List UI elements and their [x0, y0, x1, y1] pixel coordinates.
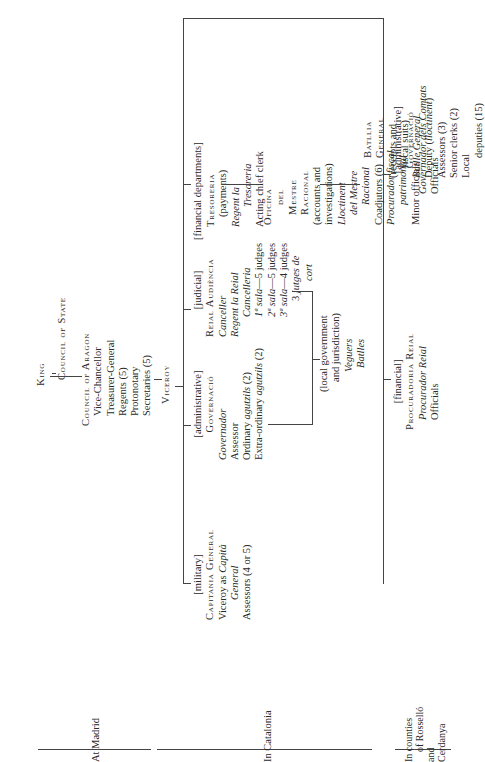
connector-governacio-down [268, 424, 313, 425]
reial-audiencia-node: [judicial] Reial Audiència Canceller Reg… [192, 243, 315, 337]
connector-local-bar [312, 291, 313, 425]
connector-king-aragon [50, 376, 82, 377]
governacio-node: [administrative] Governació Governador A… [192, 348, 266, 460]
connector-financial-departments [183, 184, 191, 185]
financial-departments-label: [financial departments] [192, 142, 204, 240]
region-label-catalonia: In Catalonia [262, 710, 274, 762]
connector-governacio-comtats [383, 174, 391, 175]
governacio-comtats-node: [administrative] Governació Governador d… [392, 86, 441, 195]
connector-oficina-batllia [320, 184, 360, 185]
main-branch-bar [183, 18, 184, 584]
local-government-node: (local government and jurisdiction) Vegu… [318, 313, 367, 392]
council-of-aragon-node: Council of Aragon Vice-Chancellor Treasu… [80, 333, 154, 426]
connector-capitania [183, 583, 191, 584]
connector-audiencia [183, 309, 191, 310]
region-label-madrid: At Madrid [90, 718, 102, 762]
connector-sala-down [292, 291, 313, 292]
connector-governacio [183, 425, 191, 426]
council-of-state-node: Council of State [56, 297, 68, 380]
branch-right-end [183, 18, 383, 19]
king-node: King [35, 363, 47, 386]
connector-procuradoria [383, 379, 391, 380]
region-label-rossello: In counties of Rosselló and Cerdanya [403, 707, 447, 762]
procuradoria-reial-node: [financial] Procuradoria Reial Procurado… [392, 333, 441, 430]
capitania-general-node: [military] Capitania General Viceroy as … [192, 529, 253, 620]
connector-tresoreria-oficina [222, 184, 260, 185]
tresoreria-node: Tresoreria (payments) Regent la Tresorer… [205, 151, 266, 227]
viceroy-node: Viceroy [160, 365, 172, 404]
